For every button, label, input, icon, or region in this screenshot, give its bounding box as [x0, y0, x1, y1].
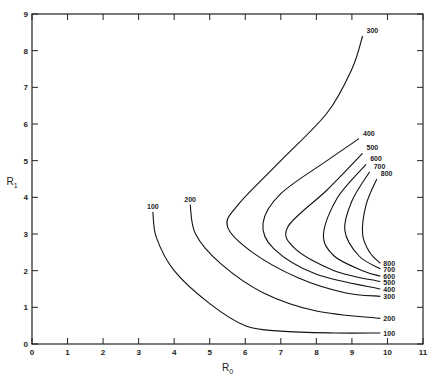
y-tick-label: 3	[24, 230, 29, 239]
contour-label-end: 800	[383, 260, 395, 267]
contour-label-end: 200	[383, 315, 395, 322]
contour-label-end: 300	[383, 293, 395, 300]
contour-800	[362, 179, 380, 263]
contour-600	[323, 164, 380, 276]
x-tick-label: 7	[279, 348, 284, 357]
contour-chart: 012345678910110123456789R0R1100100200200…	[0, 0, 438, 378]
contour-label-start: 700	[374, 163, 386, 170]
contour-700	[345, 172, 381, 269]
contour-200	[190, 205, 380, 319]
x-tick-label: 9	[350, 348, 355, 357]
contour-label-start: 600	[370, 155, 382, 162]
contour-300	[227, 36, 381, 296]
contour-label-start: 100	[147, 203, 159, 210]
contour-label-start: 500	[367, 144, 379, 151]
x-tick-label: 1	[65, 348, 70, 357]
y-tick-label: 9	[24, 10, 29, 19]
x-tick-label: 4	[172, 348, 177, 357]
x-tick-label: 8	[314, 348, 319, 357]
contour-label-start: 300	[367, 27, 379, 34]
contour-label-start: 800	[381, 170, 393, 177]
y-tick-label: 8	[24, 47, 29, 56]
contour-label-start: 400	[363, 130, 375, 137]
x-tick-label: 11	[419, 348, 428, 357]
y-axis-label: R1	[6, 176, 17, 189]
contour-label-end: 400	[383, 286, 395, 293]
x-tick-label: 6	[243, 348, 248, 357]
x-tick-label: 0	[30, 348, 35, 357]
y-tick-label: 4	[24, 193, 29, 202]
contour-500	[286, 153, 381, 281]
x-tick-label: 3	[136, 348, 141, 357]
y-tick-label: 6	[24, 120, 29, 129]
y-tick-label: 2	[24, 267, 29, 276]
y-tick-label: 1	[24, 303, 29, 312]
x-tick-label: 2	[101, 348, 106, 357]
y-tick-label: 5	[24, 157, 29, 166]
contour-label-end: 600	[383, 273, 395, 280]
x-tick-label: 5	[208, 348, 213, 357]
y-tick-label: 7	[24, 83, 29, 92]
contour-label-end: 100	[383, 330, 395, 337]
x-axis-label: R0	[222, 362, 233, 375]
x-tick-label: 10	[383, 348, 392, 357]
contour-label-start: 200	[184, 196, 196, 203]
y-tick-label: 0	[24, 340, 29, 349]
